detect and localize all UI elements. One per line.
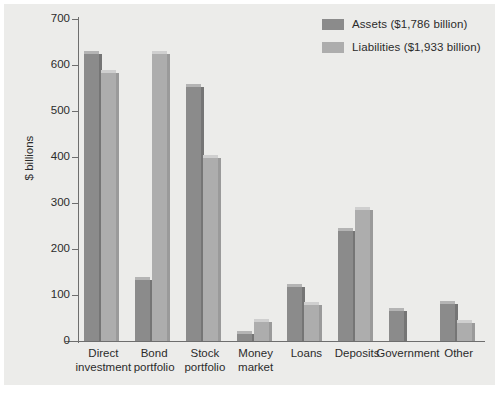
bar-face xyxy=(84,54,99,342)
bar-top-face xyxy=(287,284,302,287)
bar-face xyxy=(304,305,319,341)
y-tick-label: 300 xyxy=(32,196,70,208)
bar-face xyxy=(287,287,302,341)
bar-face xyxy=(254,322,269,341)
bar-side-face xyxy=(472,323,475,341)
chart-figure: Assets ($1,786 billion) Liabilities ($1,… xyxy=(0,0,499,396)
bar-assets xyxy=(186,87,201,341)
y-tick-label: 500 xyxy=(32,104,70,116)
bar-top-face xyxy=(440,301,455,304)
bar-side-face xyxy=(404,311,407,341)
bar-liabilities xyxy=(203,158,218,341)
x-axis-line xyxy=(65,341,485,342)
bar-assets xyxy=(135,280,150,341)
x-axis-label-line: Other xyxy=(421,346,496,360)
bar-liabilities xyxy=(355,210,370,341)
y-tick-label: 600 xyxy=(32,58,70,70)
bar-top-face xyxy=(355,207,370,210)
bar-top-face xyxy=(254,319,269,322)
bar-liabilities xyxy=(304,305,319,341)
bar-face xyxy=(237,334,252,341)
y-tick-label: 200 xyxy=(32,242,70,254)
bar-side-face xyxy=(218,158,221,341)
bar-assets xyxy=(84,54,99,342)
bar-assets xyxy=(287,287,302,341)
bar-top-face xyxy=(338,228,353,231)
bar-face xyxy=(338,231,353,341)
bar-liabilities xyxy=(254,322,269,341)
bar-face xyxy=(355,210,370,341)
bar-assets xyxy=(338,231,353,341)
bar-side-face xyxy=(269,322,272,341)
x-axis-label-line: market xyxy=(218,360,293,374)
y-tick-label: 400 xyxy=(32,150,70,162)
y-tick-mark xyxy=(72,341,79,342)
bar-side-face xyxy=(116,73,119,341)
bar-top-face xyxy=(84,51,99,54)
bar-top-face xyxy=(135,277,150,280)
x-axis-label: Other xyxy=(421,346,496,360)
bar-assets xyxy=(237,334,252,341)
plot-area xyxy=(78,19,484,341)
bar-top-face xyxy=(304,302,319,305)
bar-top-face xyxy=(389,308,404,311)
bar-liabilities xyxy=(152,54,167,341)
bar-side-face xyxy=(319,305,322,341)
bar-side-face xyxy=(370,210,373,341)
bar-assets xyxy=(440,304,455,341)
bar-top-face xyxy=(237,331,252,334)
bar-assets xyxy=(389,311,404,341)
bar-top-face xyxy=(186,84,201,87)
y-tick-label: 0 xyxy=(32,334,70,346)
bar-face xyxy=(135,280,150,341)
bar-face xyxy=(389,311,404,341)
bar-side-face xyxy=(167,54,170,341)
bar-face xyxy=(203,158,218,341)
bar-top-face xyxy=(203,155,218,158)
bar-face xyxy=(440,304,455,341)
bar-liabilities xyxy=(101,73,116,341)
bar-face xyxy=(186,87,201,341)
bar-face xyxy=(152,54,167,341)
bar-top-face xyxy=(101,70,116,73)
bar-liabilities xyxy=(457,323,472,341)
bar-top-face xyxy=(152,51,167,54)
bar-face xyxy=(101,73,116,341)
bar-face xyxy=(457,323,472,341)
bar-top-face xyxy=(457,320,472,323)
y-tick-label: 100 xyxy=(32,288,70,300)
y-tick-label: 700 xyxy=(32,12,70,24)
